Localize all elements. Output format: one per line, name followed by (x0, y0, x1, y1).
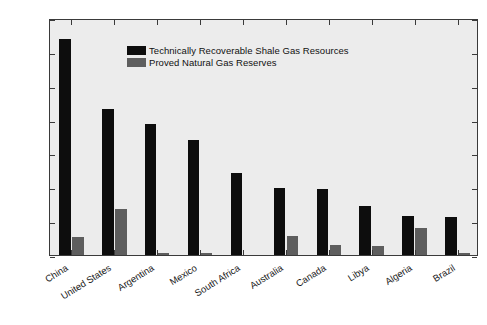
y-tick-mark-right (472, 88, 477, 89)
legend-entry-1: Proved Natural Gas Reserves (127, 57, 349, 68)
bar-canada-series-0 (317, 189, 329, 255)
chart-figure: Trillion Cubic Feet 02004006008001,0001,… (0, 0, 487, 325)
y-tick-mark-right (472, 189, 477, 190)
legend-label-1: Proved Natural Gas Reserves (149, 57, 277, 68)
x-tick-label-brazil: Brazil (430, 262, 456, 284)
bar-mexico-series-0 (188, 140, 200, 255)
bar-libya-series-0 (359, 206, 371, 255)
y-tick-mark-right (472, 20, 477, 21)
y-tick-mark (50, 155, 55, 156)
x-tick-mark (372, 20, 373, 25)
x-tick-label-mexico: Mexico (168, 262, 199, 287)
bar-group (350, 20, 393, 255)
bar-group (393, 20, 436, 255)
x-tick-label-libya: Libya (345, 262, 370, 283)
bar-brazil-series-0 (445, 217, 457, 255)
x-tick-label-australia: Australia (248, 262, 285, 291)
bar-argentina-series-0 (145, 124, 157, 255)
x-tick-mark (200, 250, 201, 255)
x-tick-label-algeria: Algeria (383, 262, 414, 287)
x-tick-mark (329, 250, 330, 255)
x-tick-mark (243, 250, 244, 255)
x-tick-label-south-africa: South Africa (193, 262, 242, 298)
y-tick-mark (50, 88, 55, 89)
y-tick-mark-right (472, 54, 477, 55)
y-tick-mark (50, 54, 55, 55)
x-tick-mark (372, 250, 373, 255)
y-tick-mark (50, 122, 55, 123)
x-tick-mark (329, 20, 330, 25)
y-tick-mark-right (472, 122, 477, 123)
x-tick-mark (71, 20, 72, 25)
bar-australia-series-0 (274, 188, 286, 255)
y-tick-mark-right (472, 155, 477, 156)
x-tick-mark (243, 20, 244, 25)
bar-australia-series-1 (287, 236, 299, 255)
y-tick-mark (50, 189, 55, 190)
x-tick-mark (286, 250, 287, 255)
x-tick-mark (415, 20, 416, 25)
bar-algeria-series-0 (402, 216, 414, 255)
x-tick-mark (114, 20, 115, 25)
bar-algeria-series-1 (415, 228, 427, 255)
legend-label-0: Technically Recoverable Shale Gas Resour… (149, 45, 349, 56)
y-tick-mark (50, 20, 55, 21)
x-tick-mark (157, 250, 158, 255)
legend-entry-0: Technically Recoverable Shale Gas Resour… (127, 45, 349, 56)
plot-area: 02004006008001,0001,2001,400 Technically… (49, 19, 478, 256)
x-tick-label-canada: Canada (294, 262, 328, 289)
x-axis-tick-labels: ChinaUnited StatesArgentinaMexicoSouth A… (49, 256, 478, 325)
x-tick-mark (71, 250, 72, 255)
x-tick-mark (458, 20, 459, 25)
x-tick-mark (415, 250, 416, 255)
bar-united-states-series-0 (102, 109, 114, 255)
legend-swatch-icon-1 (127, 58, 146, 67)
x-tick-mark (157, 20, 158, 25)
x-tick-label-china: China (43, 262, 70, 284)
y-tick-mark (50, 223, 55, 224)
x-tick-mark (458, 250, 459, 255)
x-tick-mark (286, 20, 287, 25)
bar-south-africa-series-0 (231, 173, 243, 255)
bar-brazil-series-1 (458, 253, 470, 255)
bar-mexico-series-1 (201, 253, 213, 255)
x-tick-label-argentina: Argentina (116, 262, 156, 293)
legend-swatch-icon-0 (127, 46, 146, 55)
x-tick-mark (114, 250, 115, 255)
x-tick-mark (200, 20, 201, 25)
chart-legend: Technically Recoverable Shale Gas Resour… (127, 43, 349, 71)
bar-china-series-0 (59, 39, 71, 255)
bar-group (436, 20, 479, 255)
bar-united-states-series-1 (115, 209, 127, 255)
bar-china-series-1 (72, 237, 84, 255)
bar-argentina-series-1 (158, 253, 170, 255)
bar-libya-series-1 (372, 246, 384, 255)
bar-group (50, 20, 93, 255)
y-tick-mark-right (472, 223, 477, 224)
bar-canada-series-1 (330, 245, 342, 255)
